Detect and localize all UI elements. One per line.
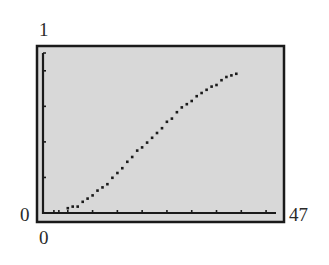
calculator-graph-screen: [0, 0, 329, 265]
data-point: [96, 189, 99, 192]
data-point: [101, 186, 104, 189]
data-point: [126, 161, 129, 164]
data-point: [91, 194, 94, 197]
data-point: [156, 132, 159, 135]
data-point: [230, 74, 233, 77]
data-point: [181, 106, 184, 109]
data-point: [200, 92, 203, 95]
data-point: [235, 73, 238, 76]
data-point: [205, 89, 208, 92]
data-point: [220, 79, 223, 82]
data-point: [136, 149, 139, 152]
data-point: [141, 146, 144, 149]
data-point: [186, 103, 189, 106]
data-point: [67, 207, 70, 210]
data-point: [166, 121, 169, 124]
data-point: [146, 141, 149, 144]
data-point: [106, 183, 109, 186]
data-point: [176, 111, 179, 114]
data-point: [171, 117, 174, 120]
data-point: [116, 172, 119, 175]
screen-frame: [37, 46, 284, 222]
data-point: [210, 85, 213, 88]
data-point: [131, 156, 134, 159]
data-point: [71, 205, 74, 208]
data-point: [111, 177, 114, 180]
data-point: [225, 76, 228, 79]
data-point: [121, 167, 124, 170]
data-point: [161, 127, 164, 130]
data-point: [190, 100, 193, 103]
data-point: [81, 201, 84, 204]
data-point: [195, 95, 198, 98]
data-point: [76, 205, 79, 208]
data-point: [151, 137, 154, 140]
data-point: [215, 84, 218, 87]
data-point: [86, 197, 89, 200]
